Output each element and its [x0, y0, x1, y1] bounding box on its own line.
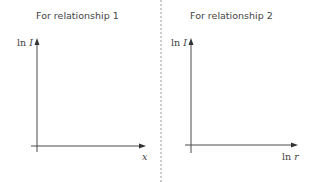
panel-2-title: For relationship 2: [190, 10, 273, 21]
panel-1-x-label: x: [142, 151, 147, 162]
panel-1-axes: [31, 38, 146, 152]
y-label-var: I: [183, 37, 187, 48]
panel-1-y-label: ln I: [17, 37, 33, 48]
panel-2-x-label: ln r: [282, 151, 299, 162]
y-label-var: I: [29, 37, 33, 48]
x-axis-arrow-icon: [291, 143, 298, 148]
panel-2-axes: [185, 38, 298, 153]
x-label-prefix: ln: [282, 151, 291, 162]
x-label-var: r: [294, 151, 299, 162]
y-label-prefix: ln: [171, 37, 180, 48]
panel-2-y-label: ln I: [171, 37, 187, 48]
x-label-var: x: [142, 151, 147, 162]
y-axis-arrow-icon: [189, 38, 194, 45]
panel-1-title: For relationship 1: [36, 10, 119, 21]
diagram-canvas: [0, 0, 316, 182]
y-axis-arrow-icon: [35, 38, 40, 45]
y-label-prefix: ln: [17, 37, 26, 48]
x-axis-arrow-icon: [139, 144, 146, 149]
